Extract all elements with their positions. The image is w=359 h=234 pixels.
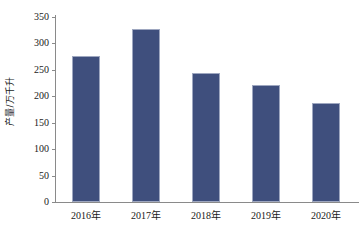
y-axis-tick-label: 300 — [34, 36, 49, 49]
x-axis-tick-label: 2017年 — [116, 207, 176, 222]
bar — [72, 56, 100, 202]
bar — [252, 85, 280, 202]
bar — [132, 29, 160, 202]
x-axis-tick-label: 2019年 — [236, 207, 296, 222]
x-axis-tick-label: 2020年 — [296, 207, 356, 222]
y-axis-tick-mark — [52, 202, 56, 203]
y-axis-tick-label: 50 — [39, 169, 49, 182]
y-axis-label-text: 产量/万千升 — [3, 77, 16, 125]
y-axis-tick-label: 150 — [34, 116, 49, 129]
plot-area — [56, 17, 356, 202]
x-axis-tick-label: 2018年 — [176, 207, 236, 222]
y-axis-tick-label: 350 — [34, 10, 49, 23]
bar-chart: 产量/万千升 050100150200250300350 2016年2017年2… — [0, 0, 359, 234]
y-axis-tick-label: 0 — [44, 195, 49, 208]
x-axis-line — [55, 202, 359, 203]
y-axis-tick-label: 250 — [34, 63, 49, 76]
x-axis-tick-label: 2016年 — [56, 207, 116, 222]
bar — [312, 103, 340, 202]
y-axis-tick-label: 200 — [34, 89, 49, 102]
y-axis-label: 产量/万千升 — [0, 0, 18, 202]
y-axis-tick-label: 100 — [34, 142, 49, 155]
bar — [192, 73, 220, 202]
